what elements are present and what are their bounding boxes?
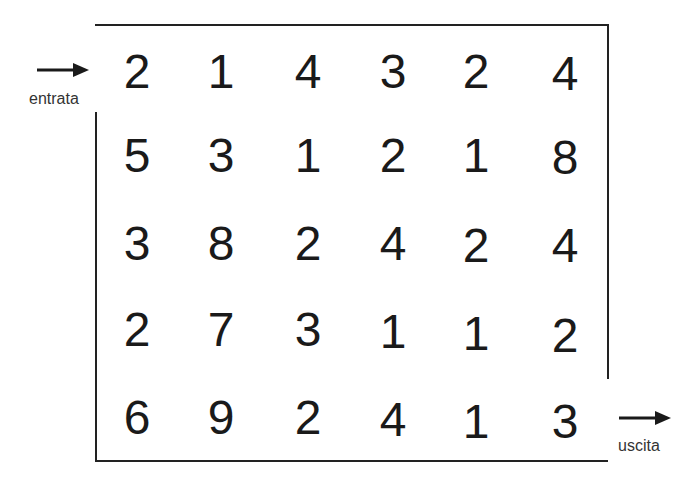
grid-cell: 4 [363,220,423,268]
grid-cell: 1 [278,132,338,180]
grid-cell: 1 [446,310,506,358]
grid-cell: 1 [446,398,506,446]
grid-cell: 4 [535,222,595,270]
grid-cell: 5 [107,132,167,180]
grid-cell: 8 [191,220,251,268]
border-bottom [95,460,608,462]
grid-cell: 8 [535,134,595,182]
grid-cell: 1 [191,48,251,96]
grid-cell: 2 [446,222,506,270]
grid-cell: 2 [363,132,423,180]
grid-cell: 1 [446,132,506,180]
grid-cell: 3 [278,306,338,354]
exit-label: uscita [618,437,660,455]
grid-cell: 4 [278,48,338,96]
grid-cell: 3 [535,398,595,446]
grid-cell: 3 [191,132,251,180]
grid-cell: 9 [191,394,251,442]
grid-cell: 3 [363,48,423,96]
entrance-arrow-icon [37,62,91,78]
exit-arrow-icon [619,410,673,426]
grid-cell: 2 [278,394,338,442]
grid-cell: 2 [107,306,167,354]
border-right [607,24,609,379]
grid-cell: 1 [363,308,423,356]
grid-cell: 6 [107,394,167,442]
grid-cell: 2 [107,48,167,96]
grid-cell: 4 [535,50,595,98]
grid-cell: 3 [107,220,167,268]
grid-cell: 2 [446,48,506,96]
border-left [95,112,97,462]
grid-cell: 7 [191,306,251,354]
grid-cell: 2 [278,220,338,268]
border-top [95,24,609,26]
grid-cell: 4 [363,396,423,444]
grid-cell: 2 [535,312,595,360]
entrance-label: entrata [29,90,79,108]
